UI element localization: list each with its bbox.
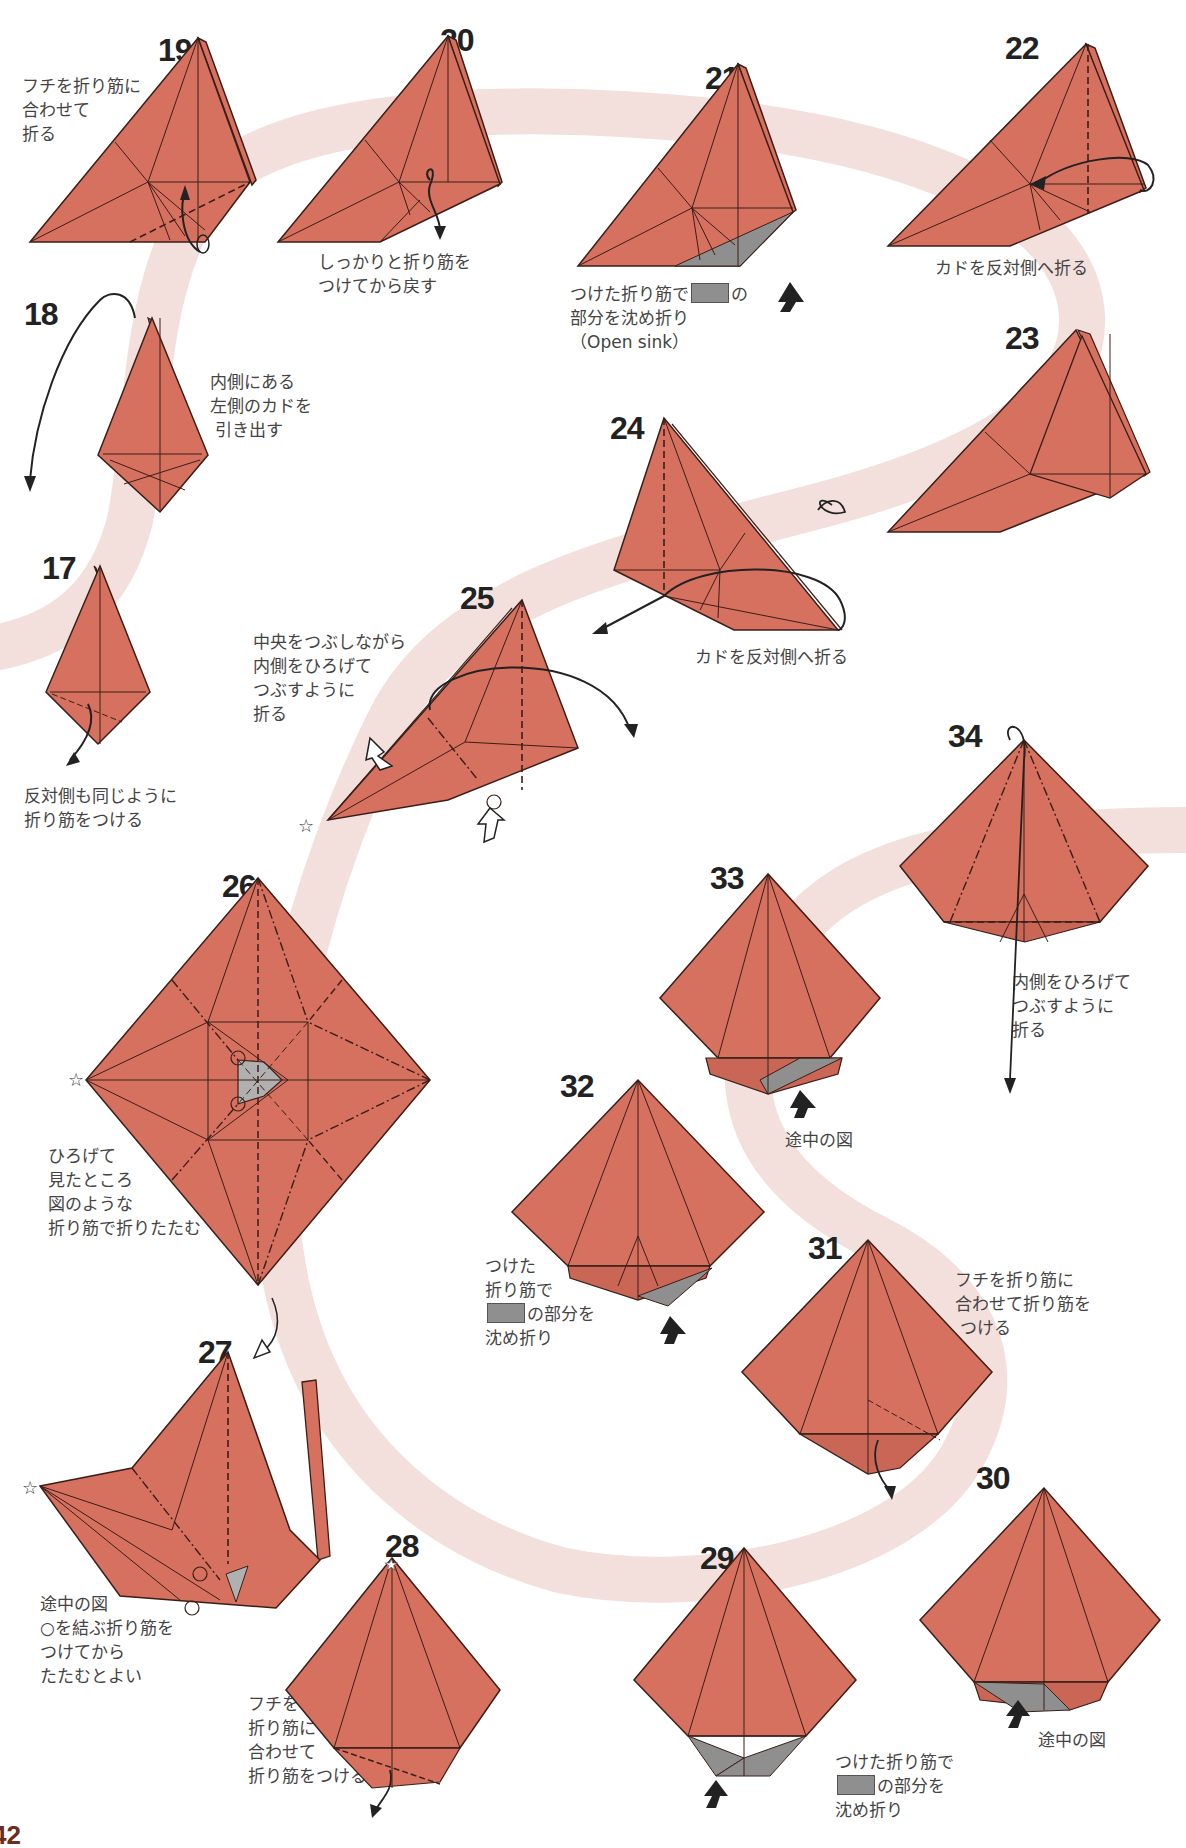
- page-number: 42: [0, 1820, 21, 1848]
- fold-diagram: [0, 0, 1186, 1848]
